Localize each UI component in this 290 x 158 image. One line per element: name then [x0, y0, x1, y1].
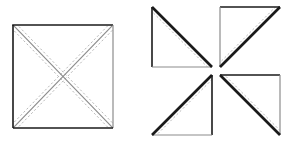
geometry-diagram: Square with diagonal stitching lines and…: [0, 0, 290, 158]
figure-root: Square with diagonal stitching lines and…: [0, 0, 290, 158]
